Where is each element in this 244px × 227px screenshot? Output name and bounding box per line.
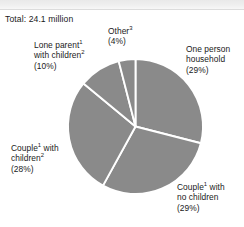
pie-chart-figure: Total: 24.1 million Other3 (4%) Lone par… (0, 0, 244, 227)
slice-label-couple-nokids-line2: no children (177, 192, 225, 202)
slice-label-couple-kids-line2: children (11, 153, 41, 163)
slice-label-one-person-line2: household (186, 54, 230, 64)
slice-label-lone-parent: Lone parent1 with children2 (10%) (34, 40, 85, 71)
slice-label-lone-parent-line1: Lone parent (34, 40, 79, 50)
slice-label-one-person-line1: One person (186, 44, 230, 54)
slice-label-couple-kids-line1b: with (41, 143, 58, 153)
slice-label-one-person-household: One person household (29%) (186, 44, 230, 75)
slice-label-other-name: Other (108, 26, 129, 36)
slice-label-other-percent: (4%) (108, 36, 133, 46)
slice-label-couple-nokids-line1b: with (207, 182, 224, 192)
slice-label-couple-kids-percent: (28%) (11, 164, 59, 174)
slice-label-other: Other3 (4%) (108, 26, 133, 47)
footnote-marker-1: 1 (79, 39, 82, 45)
footnote-marker-2: 2 (81, 50, 84, 56)
footnote-marker-2: 2 (41, 153, 44, 159)
slice-label-couple-nokids-percent: (29%) (177, 203, 225, 213)
slice-label-one-person-percent: (29%) (186, 65, 230, 75)
slice-label-lone-parent-line2: with children (34, 50, 81, 60)
slice-label-lone-parent-percent: (10%) (34, 61, 85, 71)
slice-label-couple-nokids-line1a: Couple (177, 182, 204, 192)
slice-label-couple-kids-line1a: Couple (11, 143, 38, 153)
footnote-marker-3: 3 (129, 25, 132, 31)
slice-label-couple-no-children: Couple1 with no children (29%) (177, 182, 225, 213)
slice-label-couple-with-children: Couple1 with children2 (28%) (11, 143, 59, 174)
